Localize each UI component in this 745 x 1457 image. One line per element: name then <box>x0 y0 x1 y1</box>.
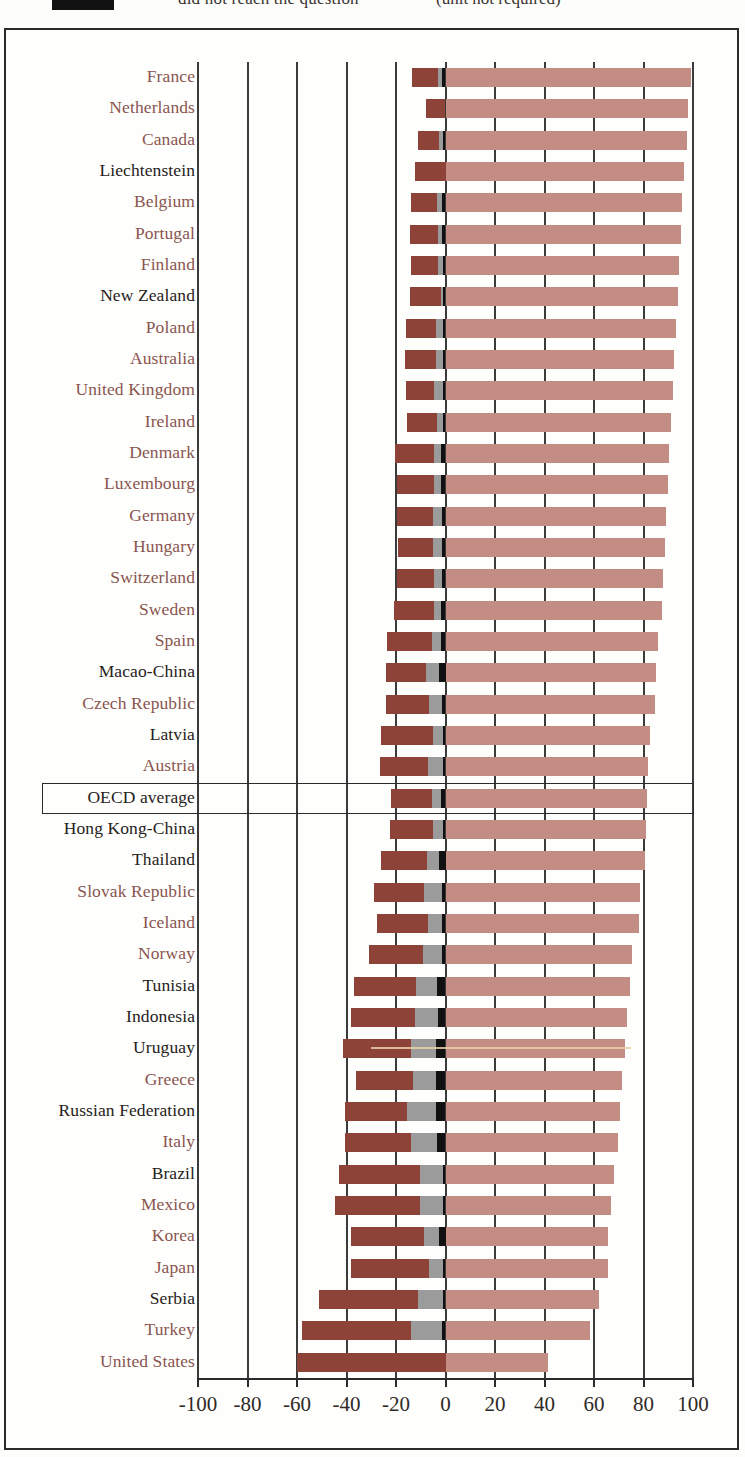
bar-row: Liechtenstein <box>6 156 741 188</box>
bar-segment-rose <box>446 1196 612 1215</box>
bar-row: France <box>6 62 741 94</box>
row-label: Tunisia <box>142 975 195 996</box>
row-label: Greece <box>145 1069 195 1090</box>
bar-segment-dark <box>407 413 437 432</box>
bar-segment-dark <box>339 1165 419 1184</box>
bar-segment-gray <box>420 1196 444 1215</box>
bar-segment-gray <box>433 507 442 526</box>
tick-label--40: -40 <box>333 1392 361 1417</box>
bar-segment-rose <box>446 162 685 181</box>
bar-row: Belgium <box>6 187 741 219</box>
bar-segment-rose <box>446 131 687 150</box>
bar-row: Switzerland <box>6 563 741 595</box>
row-label: Germany <box>129 505 195 526</box>
tick-label--100: -100 <box>179 1392 218 1417</box>
bar-segment-dark <box>345 1133 411 1152</box>
bar-segment-dark <box>369 945 423 964</box>
bar-segment-rose <box>446 569 664 588</box>
chart-frame: FranceNetherlandsCanadaLiechtensteinBelg… <box>4 28 739 1450</box>
bar-segment-gray <box>407 1102 435 1121</box>
bar-segment-rose <box>446 413 671 432</box>
bar-segment-black <box>436 1039 446 1058</box>
tick-label-0: 0 <box>440 1392 451 1417</box>
bar-segment-rose <box>446 914 639 933</box>
bar-row: Hungary <box>6 532 741 564</box>
bar-row: Czech Republic <box>6 689 741 721</box>
bar-segment-rose <box>446 1039 625 1058</box>
bar-segment-gray <box>420 1165 444 1184</box>
tick-label-100: 100 <box>677 1392 709 1417</box>
bar-segment-rose <box>446 1227 608 1246</box>
bar-segment-black <box>436 1102 446 1121</box>
bar-segment-dark <box>426 99 446 118</box>
bar-segment-gray <box>411 1039 436 1058</box>
tick--80 <box>247 1378 249 1387</box>
bar-segment-rose <box>446 1008 628 1027</box>
bar-segment-gray <box>428 757 443 776</box>
row-label: France <box>147 66 195 87</box>
scan-artifact-line <box>371 1047 631 1048</box>
bar-segment-dark <box>405 350 436 369</box>
bar-segment-rose <box>446 444 670 463</box>
bar-segment-dark <box>391 789 432 808</box>
bar-segment-dark <box>397 507 433 526</box>
bar-row: Mexico <box>6 1190 741 1222</box>
tick-label-60: 60 <box>584 1392 605 1417</box>
tick-label--20: -20 <box>382 1392 410 1417</box>
row-label: Italy <box>162 1131 195 1152</box>
bar-segment-dark <box>381 726 433 745</box>
bar-segment-gray <box>413 1071 435 1090</box>
bar-segment-dark <box>345 1102 407 1121</box>
bar-segment-gray <box>416 977 437 996</box>
bar-segment-rose <box>446 851 645 870</box>
bar-segment-black <box>436 1071 446 1090</box>
row-label: Turkey <box>144 1319 195 1340</box>
bar-segment-gray <box>411 1321 442 1340</box>
bar-row: New Zealand <box>6 281 741 313</box>
bar-row: OECD average <box>6 783 741 815</box>
bar-segment-gray <box>415 1008 439 1027</box>
bar-segment-gray <box>437 193 442 212</box>
bar-segment-dark <box>397 569 434 588</box>
bar-segment-rose <box>446 507 666 526</box>
bar-segment-rose <box>446 1290 599 1309</box>
bar-segment-gray <box>432 632 441 651</box>
tick-label--80: -80 <box>234 1392 262 1417</box>
bar-row: Indonesia <box>6 1002 741 1034</box>
bar-segment-dark <box>386 663 426 682</box>
row-label: OECD average <box>87 787 195 808</box>
row-label: Ireland <box>145 411 195 432</box>
bar-segment-gray <box>426 663 440 682</box>
bar-segment-gray <box>433 726 443 745</box>
bar-segment-gray <box>433 538 442 557</box>
tick-label-80: 80 <box>633 1392 654 1417</box>
bar-segment-dark <box>412 68 438 87</box>
row-label: Mexico <box>141 1194 195 1215</box>
bar-segment-rose <box>446 1165 614 1184</box>
bar-segment-gray <box>433 820 443 839</box>
row-label: Belgium <box>134 191 195 212</box>
bar-segment-rose <box>446 193 682 212</box>
bar-segment-rose <box>446 287 679 306</box>
tick-label--60: -60 <box>283 1392 311 1417</box>
bar-segment-dark <box>406 319 436 338</box>
legend-swatch-black <box>52 0 114 10</box>
bar-segment-gray <box>427 851 439 870</box>
bar-row: Iceland <box>6 908 741 940</box>
row-label: Liechtenstein <box>99 160 195 181</box>
tick-label-20: 20 <box>485 1392 506 1417</box>
bar-segment-dark <box>406 381 434 400</box>
bar-segment-rose <box>446 977 630 996</box>
bar-segment-gray <box>434 381 443 400</box>
bar-segment-dark <box>418 131 439 150</box>
bar-segment-dark <box>335 1196 419 1215</box>
bar-segment-gray <box>441 287 443 306</box>
bar-segment-gray <box>438 256 443 275</box>
bar-row: Luxembourg <box>6 469 741 501</box>
bar-row: Korea <box>6 1221 741 1253</box>
bar-segment-gray <box>434 601 440 620</box>
tick-20 <box>494 1378 496 1387</box>
bar-segment-gray <box>424 883 441 902</box>
tick-40 <box>544 1378 546 1387</box>
bar-segment-rose <box>446 1071 623 1090</box>
